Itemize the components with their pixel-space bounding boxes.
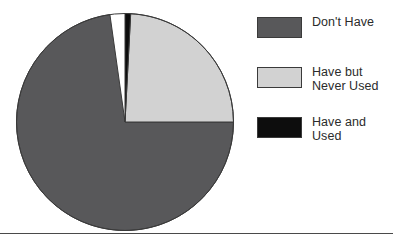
- legend-swatch-have-but-never-used: [257, 67, 302, 88]
- pie-slice[interactable]: [125, 14, 234, 122]
- legend-label-have-and-used: Have and Used: [312, 116, 366, 143]
- legend-swatch-dont-have: [257, 17, 302, 38]
- pie-slice-group: [17, 14, 234, 231]
- pie-chart-figure: Don't Have Have but Never Used Have and …: [0, 0, 393, 241]
- pie-chart-plot-area: [16, 13, 234, 231]
- legend-label-have-but-never-used: Have but Never Used: [312, 66, 379, 93]
- footer-divider: [0, 233, 393, 234]
- legend-swatch-have-and-used: [257, 117, 302, 138]
- legend-label-dont-have: Don't Have: [312, 16, 374, 30]
- pie-chart-svg: [16, 13, 234, 231]
